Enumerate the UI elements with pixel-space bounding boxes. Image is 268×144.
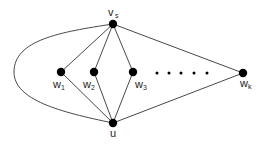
- label-w3: w: [134, 78, 143, 90]
- edge-vs-w3: [113, 24, 133, 72]
- graph-svg: v s w 1 w 2 w 3 w k u: [0, 0, 268, 144]
- label-vs-sub: s: [115, 12, 119, 19]
- node-w3: [129, 68, 137, 76]
- label-w3-sub: 3: [143, 84, 147, 91]
- label-u: u: [110, 127, 116, 139]
- edge-vs-wk: [113, 24, 243, 73]
- label-w1-sub: 1: [61, 84, 65, 91]
- node-vs: [109, 20, 117, 28]
- label-wk: w: [239, 77, 248, 89]
- edges: [14, 24, 243, 123]
- labels: v s w 1 w 2 w 3 w k u: [52, 6, 252, 139]
- graph-diagram: v s w 1 w 2 w 3 w k u: [0, 0, 268, 144]
- node-w2: [90, 68, 98, 76]
- edge-u-w2: [94, 72, 113, 123]
- node-u: [109, 119, 117, 127]
- edge-u-wk: [113, 73, 243, 123]
- label-wk-sub: k: [248, 83, 252, 90]
- label-vs: v: [108, 6, 114, 18]
- label-w1: w: [52, 78, 61, 90]
- label-w2-sub: 2: [91, 84, 95, 91]
- edge-vs-w1: [61, 24, 113, 72]
- nodes: [57, 20, 247, 127]
- ellipsis-dots: [156, 72, 209, 75]
- node-wk: [239, 69, 247, 77]
- node-w1: [57, 68, 65, 76]
- label-w2: w: [82, 78, 91, 90]
- edge-u-w3: [113, 72, 133, 123]
- edge-vs-w2: [94, 24, 113, 72]
